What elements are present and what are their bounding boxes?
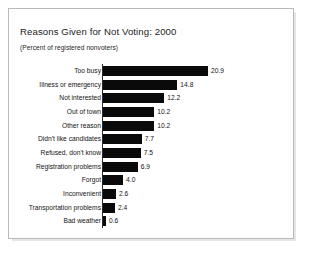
bar bbox=[103, 148, 141, 158]
bar-row: Out of town10.2 bbox=[18, 107, 280, 117]
bar-row: Illness or emergency14.8 bbox=[18, 80, 280, 90]
value-label: 6.9 bbox=[141, 162, 150, 172]
bar-row: Not interested12.2 bbox=[18, 93, 280, 103]
bar bbox=[103, 134, 142, 144]
category-label: Out of town bbox=[67, 107, 101, 117]
bar bbox=[103, 189, 116, 199]
category-label: Registration problems bbox=[36, 162, 101, 172]
figure-shadow-bottom bbox=[12, 239, 296, 241]
bar bbox=[103, 66, 208, 76]
chart-title: Reasons Given for Not Voting: 2000 bbox=[20, 26, 176, 37]
bar bbox=[103, 216, 106, 226]
bar-row: Transportation problems2.4 bbox=[18, 203, 280, 213]
category-label: Inconvenient bbox=[63, 189, 101, 199]
value-label: 10.2 bbox=[157, 121, 170, 131]
value-label: 7.7 bbox=[145, 134, 154, 144]
value-label: 0.6 bbox=[109, 216, 118, 226]
value-label: 12.2 bbox=[167, 93, 180, 103]
bar-row: Other reason10.2 bbox=[18, 121, 280, 131]
category-label: Not interested bbox=[59, 93, 101, 103]
bar bbox=[103, 175, 123, 185]
bar bbox=[103, 93, 164, 103]
bar bbox=[103, 121, 154, 131]
category-label: Forgot bbox=[82, 175, 101, 185]
figure-shadow-right bbox=[294, 12, 296, 241]
figure-bar-chart: Reasons Given for Not Voting: 2000 (Perc… bbox=[0, 0, 315, 254]
chart-subtitle: (Percent of registered nonvoters) bbox=[20, 44, 118, 51]
category-label: Refused, don't know bbox=[41, 148, 101, 158]
category-label: Transportation problems bbox=[29, 203, 101, 213]
bar-row: Forgot4.0 bbox=[18, 175, 280, 185]
bar-row: Didn't like candidates7.7 bbox=[18, 134, 280, 144]
value-label: 14.8 bbox=[180, 80, 193, 90]
bar-row: Registration problems6.9 bbox=[18, 162, 280, 172]
bar-row: Too busy20.9 bbox=[18, 66, 280, 76]
bar-row: Bad weather0.6 bbox=[18, 216, 280, 226]
bar bbox=[103, 80, 177, 90]
bar bbox=[103, 162, 138, 172]
value-label: 4.0 bbox=[126, 175, 135, 185]
bar bbox=[103, 203, 115, 213]
value-label: 7.5 bbox=[144, 148, 153, 158]
value-label: 2.6 bbox=[119, 189, 128, 199]
category-label: Didn't like candidates bbox=[38, 134, 101, 144]
plot-area: Too busy20.9Illness or emergency14.8Not … bbox=[18, 64, 280, 228]
value-label: 20.9 bbox=[211, 66, 224, 76]
value-label: 2.4 bbox=[118, 203, 127, 213]
bar bbox=[103, 107, 154, 117]
bar-row: Refused, don't know7.5 bbox=[18, 148, 280, 158]
category-label: Too busy bbox=[74, 66, 101, 76]
category-label: Other reason bbox=[62, 121, 101, 131]
bar-row: Inconvenient2.6 bbox=[18, 189, 280, 199]
category-label: Illness or emergency bbox=[39, 80, 101, 90]
category-label: Bad weather bbox=[63, 216, 101, 226]
value-label: 10.2 bbox=[157, 107, 170, 117]
